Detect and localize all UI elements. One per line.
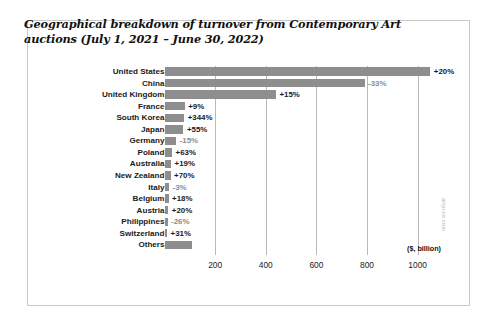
category-label: Philippines (45, 216, 165, 228)
bar-value-label: -15% (180, 135, 198, 147)
category-label: United States (45, 66, 165, 78)
bar (165, 148, 173, 156)
category-label: Austria (45, 205, 165, 217)
bar (165, 171, 171, 179)
category-label: Switzerland (45, 228, 165, 240)
bar (165, 218, 168, 226)
category-label: South Korea (45, 112, 165, 124)
bar-value-label: +15% (279, 89, 299, 101)
bar-value-label: +20% (434, 66, 454, 78)
category-label: Belgium (45, 193, 165, 205)
bar (165, 114, 185, 122)
bar-value-label: +19% (175, 158, 195, 170)
category-label: Japan (45, 124, 165, 136)
bar-row: Germany-15% (111, 135, 443, 147)
bar (165, 183, 170, 191)
bar-row: United States+20% (111, 66, 443, 78)
bar-row: Italy-3% (111, 182, 443, 194)
category-label: Germany (45, 135, 165, 147)
category-label: Others (45, 239, 165, 251)
bar (165, 90, 276, 98)
bar-row: France+9% (111, 101, 443, 113)
bar-value-label: -3% (173, 182, 187, 194)
category-label: Australia (45, 158, 165, 170)
chart-title: Geographical breakdown of turnover from … (24, 17, 424, 46)
bar (165, 160, 172, 168)
bar-row: Austria+20% (111, 205, 443, 217)
bar-row: Switzerland+31% (111, 228, 443, 240)
category-label: China (45, 78, 165, 90)
x-tick-label: 200 (208, 260, 222, 270)
category-label: New Zealand (45, 170, 165, 182)
bar (165, 206, 169, 214)
bar-value-label: -26% (171, 216, 189, 228)
category-label: Poland (45, 147, 165, 159)
bar-row: China-33% (111, 78, 443, 90)
x-tick-label: 800 (360, 260, 374, 270)
bar-value-label: +20% (172, 205, 192, 217)
bar-row: United Kingdom+15% (111, 89, 443, 101)
bar (165, 102, 185, 110)
bar (165, 67, 431, 75)
chart-figure: Geographical breakdown of turnover from … (0, 0, 496, 326)
bar-value-label: -33% (368, 78, 386, 90)
axis-unit-label: ($, billion) (407, 244, 441, 253)
bar-row: Philippines-26% (111, 216, 443, 228)
bar (165, 137, 177, 145)
x-tick-label: 600 (309, 260, 323, 270)
x-axis: 2004006008001000 (165, 255, 444, 277)
bar-row: Japan+55% (111, 124, 443, 136)
bar (165, 241, 193, 249)
bar-value-label: +31% (171, 228, 191, 240)
bar-value-label: +70% (174, 170, 194, 182)
bar-row: South Korea+344% (111, 112, 443, 124)
bar-row: Australia+19% (111, 158, 443, 170)
bar (165, 79, 365, 87)
bar-row: Others (111, 239, 443, 251)
bar (165, 125, 184, 133)
x-tick-label: 1000 (408, 260, 427, 270)
category-label: France (45, 101, 165, 113)
plot-area: United States+20%China-33%United Kingdom… (111, 66, 443, 266)
category-label: United Kingdom (45, 89, 165, 101)
bar-value-label: +18% (172, 193, 192, 205)
bar (165, 194, 169, 202)
x-tick-label: 400 (259, 260, 273, 270)
bar-row: Poland+63% (111, 147, 443, 159)
bar-value-label: +63% (176, 147, 196, 159)
bar (165, 229, 168, 237)
category-label: Italy (45, 182, 165, 194)
bar-value-label: +55% (187, 124, 207, 136)
watermark-text: artprice.com (437, 198, 447, 258)
bar-row: New Zealand+70% (111, 170, 443, 182)
bar-value-label: +344% (188, 112, 213, 124)
bar-row: Belgium+18% (111, 193, 443, 205)
bar-value-label: +9% (188, 101, 204, 113)
